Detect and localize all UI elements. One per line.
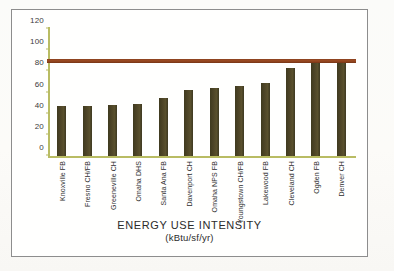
reference-line [47, 59, 356, 63]
x-label-slot: Ogden FB [303, 160, 328, 222]
bar-slot [74, 29, 99, 156]
y-axis-tick-mark [46, 70, 49, 71]
x-axis-tick-label: Greeneville CH [109, 161, 116, 210]
chart-figure-frame: 020406080100120 Knoxville FBFresno CH/FB… [11, 9, 368, 257]
y-axis-tick-label: 60 [35, 79, 44, 88]
x-label-slot: Cleveland CH [278, 160, 303, 222]
bar-slot [151, 29, 176, 156]
x-axis-tick-label: Cleveland CH [287, 161, 294, 205]
bar[interactable] [133, 104, 142, 156]
y-axis-tick-mark [46, 91, 49, 92]
x-axis-line [48, 156, 356, 158]
x-axis-tick-label: Ogden FB [312, 161, 319, 194]
y-axis-tick-label: 120 [30, 16, 44, 25]
x-label-slot: Fresno CH/FB [74, 160, 99, 222]
screenshot-root: 020406080100120 Knoxville FBFresno CH/FB… [0, 0, 394, 271]
x-axis-tick-label: Youngstown CH/FB [236, 161, 243, 223]
y-axis-tick-mark [46, 49, 49, 50]
y-axis-tick-mark [46, 112, 49, 113]
x-label-slot: Knoxville FB [49, 160, 74, 222]
bar-slot [252, 29, 277, 156]
x-label-slot: Lakewood FB [252, 160, 277, 222]
x-label-slot: Davenport CH [176, 160, 201, 222]
x-axis-tick-label: Denver CH [338, 161, 345, 197]
bar[interactable] [57, 106, 66, 156]
x-axis-tick-label: Fresno CH/FB [84, 161, 91, 207]
bar-slot [227, 29, 252, 156]
bar[interactable] [184, 90, 193, 156]
bar-slot [278, 29, 303, 156]
x-axis-tick-label: Santa Ana FB [160, 161, 167, 205]
x-label-slot: Santa Ana FB [151, 160, 176, 222]
axis-title-line1: ENERGY USE INTENSITY [12, 219, 367, 231]
axis-title-units: (kBtu/sf/yr) [12, 232, 367, 243]
bar-slot [329, 29, 354, 156]
x-axis-tick-label: Omaha NPS FB [211, 161, 218, 212]
bar[interactable] [286, 68, 295, 156]
bar[interactable] [159, 98, 168, 156]
bar-slot [202, 29, 227, 156]
x-label-slot: Greeneville CH [100, 160, 125, 222]
bar-slot [100, 29, 125, 156]
bar-slot [176, 29, 201, 156]
x-axis-tick-labels: Knoxville FBFresno CH/FBGreeneville CHOm… [49, 160, 354, 222]
bar-slot [125, 29, 150, 156]
x-label-slot: Denver CH [329, 160, 354, 222]
x-axis-tick-label: Knoxville FB [58, 161, 65, 201]
x-axis-tick-label: Lakewood FB [262, 161, 269, 205]
y-axis-tick-label: 80 [35, 58, 44, 67]
y-axis-tick-label: 0 [39, 143, 44, 152]
y-axis-tick-mark [46, 28, 49, 29]
bar[interactable] [108, 105, 117, 156]
x-axis-tick-label: Davenport CH [185, 161, 192, 207]
bar[interactable] [337, 63, 346, 156]
y-axis-tick-label: 40 [35, 100, 44, 109]
y-axis-tick-mark [46, 155, 49, 156]
bar-slot [49, 29, 74, 156]
bar[interactable] [83, 106, 92, 156]
x-axis-tick-label: Omaha DHS [134, 161, 141, 202]
x-label-slot: Youngstown CH/FB [227, 160, 252, 222]
bar-slot [303, 29, 328, 156]
bar-series [49, 29, 354, 156]
plot-area: 020406080100120 [49, 29, 354, 156]
axis-title: ENERGY USE INTENSITY (kBtu/sf/yr) [12, 219, 367, 243]
y-axis-tick-mark [46, 133, 49, 134]
y-axis-tick-label: 20 [35, 121, 44, 130]
y-axis-tick-label: 100 [30, 37, 44, 46]
bar[interactable] [235, 86, 244, 156]
bar[interactable] [261, 83, 270, 156]
x-label-slot: Omaha DHS [125, 160, 150, 222]
x-label-slot: Omaha NPS FB [202, 160, 227, 222]
bar[interactable] [210, 88, 219, 156]
bar[interactable] [311, 63, 320, 156]
